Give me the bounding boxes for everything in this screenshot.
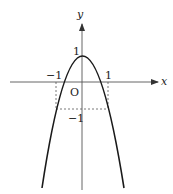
- y-axis-label: y: [76, 8, 84, 21]
- tick-label-y-1: 1: [73, 45, 80, 58]
- tick-label-x-1: 1: [105, 69, 112, 82]
- origin-label: O: [70, 86, 79, 99]
- parabola-graph: y x O 1 −1 1 −1: [0, 0, 173, 194]
- x-axis-label: x: [161, 75, 168, 88]
- tick-label-x-neg1: −1: [46, 69, 62, 82]
- tick-label-y-neg1: −1: [68, 112, 84, 125]
